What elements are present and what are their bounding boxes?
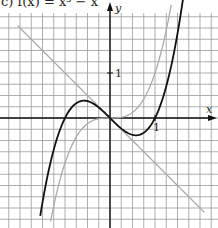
- y-axis-arrow-icon: [107, 2, 113, 11]
- axes: [0, 2, 217, 228]
- grid: [0, 13, 218, 228]
- x-tick-label: 1: [153, 121, 160, 134]
- curves: [18, 0, 205, 221]
- x-axis-label: x: [206, 103, 213, 116]
- y-tick-label: 1: [115, 67, 122, 80]
- function-plot: yx11: [0, 0, 218, 228]
- y-axis-label: y: [114, 2, 122, 15]
- curve-x-3-x: [40, 0, 183, 216]
